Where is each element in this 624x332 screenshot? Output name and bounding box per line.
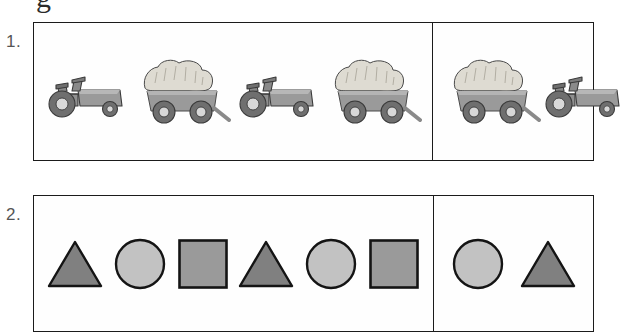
triangle-icon bbox=[238, 239, 294, 289]
circle-icon bbox=[451, 237, 505, 291]
problem-2-number: 2. bbox=[6, 205, 32, 225]
triangle-icon bbox=[47, 239, 103, 289]
tractor-icon bbox=[235, 64, 321, 120]
circle-icon bbox=[113, 237, 167, 291]
cut-off-text-glyph: g bbox=[36, 0, 51, 12]
hay-wagon-icon bbox=[443, 54, 541, 130]
problem-1-sequence-panel bbox=[34, 23, 432, 160]
problem-1-panels bbox=[34, 23, 593, 160]
problem-1-answer-panel[interactable] bbox=[432, 23, 624, 160]
problem-2-panels bbox=[34, 196, 593, 331]
problem-1-number: 1. bbox=[6, 32, 32, 52]
problem-2-answer-panel[interactable] bbox=[433, 196, 593, 331]
circle-icon bbox=[304, 237, 358, 291]
tractor-icon bbox=[541, 64, 624, 120]
square-icon bbox=[368, 238, 420, 290]
tractor-icon bbox=[44, 64, 130, 120]
problem-1-box bbox=[33, 22, 594, 161]
square-icon bbox=[177, 238, 229, 290]
problem-2-box bbox=[33, 195, 594, 332]
triangle-icon bbox=[520, 239, 576, 289]
problem-2-sequence-panel bbox=[34, 196, 433, 331]
hay-wagon-icon bbox=[133, 54, 231, 130]
hay-wagon-icon bbox=[324, 54, 422, 130]
